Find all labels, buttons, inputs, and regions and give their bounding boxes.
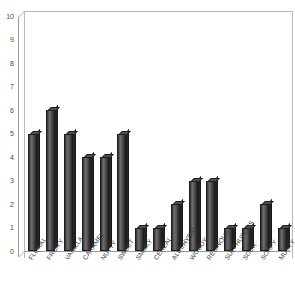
bar-side-face — [37, 129, 40, 250]
y-tick-label-3: 3 — [0, 177, 14, 184]
bar-floral — [28, 134, 37, 252]
y-tick-label-2: 2 — [0, 201, 14, 208]
bar-chart: 012345678910 FLORALFRUITYVANILLACARAMELN… — [0, 0, 295, 305]
y-tick-label-5: 5 — [0, 130, 14, 137]
y-tick-label-9: 9 — [0, 36, 14, 43]
bar-face — [189, 181, 198, 252]
y-tick-label-1: 1 — [0, 224, 14, 231]
bar-caramel — [82, 157, 91, 251]
bar-side-face — [126, 129, 129, 250]
bar-face — [64, 134, 73, 252]
bar-side-face — [91, 152, 94, 249]
y-tick-label-8: 8 — [0, 60, 14, 67]
bar-face — [28, 134, 37, 252]
bar-fruity — [46, 110, 55, 251]
bar-side-face — [55, 105, 58, 249]
bar-face — [117, 134, 126, 252]
bar-vanilla — [64, 134, 73, 252]
bar-woody — [189, 181, 198, 252]
y-tick-label-7: 7 — [0, 83, 14, 90]
y-tick-label-6: 6 — [0, 107, 14, 114]
y-tick-label-4: 4 — [0, 154, 14, 161]
y-tick-label-0: 0 — [0, 248, 14, 255]
bar-side-face — [109, 152, 112, 249]
bar-face — [46, 110, 55, 251]
y-axis-line — [18, 17, 19, 257]
bar-face — [82, 157, 91, 251]
bar-sweet — [117, 134, 126, 252]
y-tick-label-10: 10 — [0, 13, 14, 20]
bar-side-face — [73, 129, 76, 250]
